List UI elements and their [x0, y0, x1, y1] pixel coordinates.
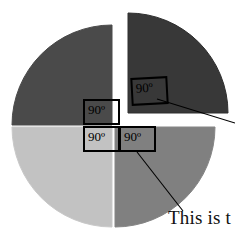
angle-label-top-right: 90º	[130, 76, 168, 106]
pie-chart: 90º 90º 90º 90º This is t	[0, 0, 235, 233]
angle-label-top-left: 90º	[83, 99, 120, 125]
angle-label-bottom-left: 90º	[83, 126, 120, 152]
angle-label-top-right-text: 90º	[135, 80, 153, 96]
angle-label-bottom-right-text: 90º	[124, 129, 141, 144]
angle-label-bottom-right: 90º	[119, 126, 156, 152]
angle-label-bottom-left-text: 90º	[88, 129, 105, 144]
callout-annotation-text: This is t	[168, 207, 231, 229]
angle-label-top-left-text: 90º	[88, 102, 105, 117]
